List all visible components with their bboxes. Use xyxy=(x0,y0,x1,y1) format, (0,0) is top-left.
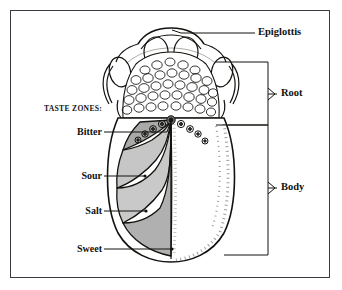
lingual-tonsil-root xyxy=(122,48,219,118)
brace-root xyxy=(216,62,277,125)
taste-label-sour: Sour xyxy=(20,171,102,181)
leader-epiglottis xyxy=(172,30,255,33)
taste-zones-header: TASTE ZONES: xyxy=(44,105,102,113)
taste-label-salt: Salt xyxy=(20,206,102,216)
tongue-taste-zone-figure: TASTE ZONES: Bitter Sour Salt Sweet Epig… xyxy=(0,0,342,290)
part-label-epiglottis: Epiglottis xyxy=(258,27,301,38)
taste-label-sweet: Sweet xyxy=(20,244,102,254)
taste-label-bitter: Bitter xyxy=(20,127,102,137)
part-label-body: Body xyxy=(281,182,304,193)
part-label-root: Root xyxy=(281,88,303,99)
